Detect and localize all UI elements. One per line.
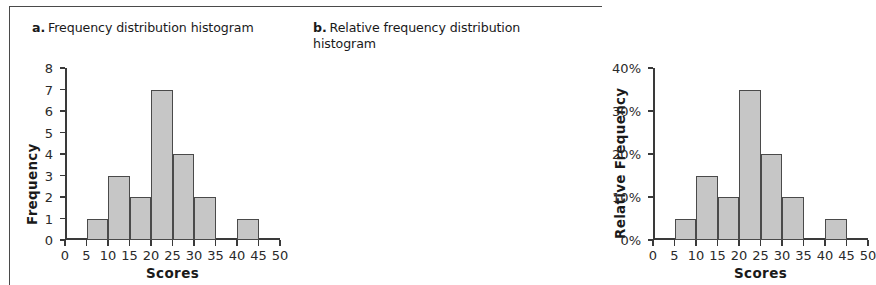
panel-a-x-tick-label: 0 [61, 248, 69, 263]
panel-b-y-tick: 30% [648, 110, 653, 112]
panel-a-y-tick: 3 [60, 175, 65, 177]
panel-a-y-tick-label: 6 [45, 104, 53, 119]
panel-a-x-tick-label: 35 [207, 248, 224, 263]
panel-b-x-tick: 50 [867, 240, 869, 246]
panel-b-y-tick-label: 0% [620, 233, 641, 248]
panel-b-plot-area: 0%10%20%30%40% 05101520253035404550 [653, 68, 868, 240]
panel-a-x-tick-label: 45 [250, 248, 267, 263]
panel-b-x-tick-label: 25 [752, 248, 769, 263]
panel-frequency-histogram: a.Frequency distribution histogram Frequ… [10, 7, 306, 285]
panel-a-y-tick: 5 [60, 132, 65, 134]
panel-a-y-tick-label: 7 [45, 82, 53, 97]
panel-b-x-tick: 5 [674, 240, 676, 246]
panel-relative-frequency-histogram: b.Relative frequency distribution histog… [301, 7, 597, 285]
panel-b-x-tick-label: 50 [860, 248, 876, 263]
panel-a-y-tick-label: 2 [45, 190, 53, 205]
panel-a-x-tick-label: 10 [100, 248, 117, 263]
panel-b-x-axis-caption: Scores [653, 265, 868, 281]
panel-a-x-tick: 0 [64, 240, 66, 246]
panel-b-title-text: Relative frequency distribution histogra… [313, 20, 520, 51]
panel-b-bar [739, 90, 761, 241]
panel-b-x-tick-label: 35 [795, 248, 812, 263]
panel-a-x-tick-label: 25 [164, 248, 181, 263]
panel-b-x-tick-label: 20 [731, 248, 748, 263]
panel-a-x-tick: 20 [150, 240, 152, 246]
panel-b-y-tick: 40% [648, 67, 653, 69]
panel-a-y-tick-label: 3 [45, 168, 53, 183]
panel-a-x-tick: 45 [258, 240, 260, 246]
panel-a-x-tick-label: 15 [121, 248, 138, 263]
panel-a-y-axis-caption: Frequency [24, 143, 40, 225]
panel-b-x-tick: 30 [781, 240, 783, 246]
panel-b-bar [825, 219, 847, 241]
panel-b-bar [718, 197, 740, 240]
panel-a-x-tick: 10 [107, 240, 109, 246]
panel-a-y-axis-line [65, 68, 67, 240]
panel-b-x-tick-label: 45 [838, 248, 855, 263]
panel-a-y-tick: 4 [60, 153, 65, 155]
panel-a-letter: a. [32, 20, 45, 35]
panel-a-y-tick: 7 [60, 89, 65, 91]
panel-a-bar [130, 197, 152, 240]
panel-b-y-tick: 20% [648, 153, 653, 155]
panel-a-x-tick: 50 [279, 240, 281, 246]
panel-a-y-tick-label: 0 [45, 233, 53, 248]
panel-b-bar [782, 197, 804, 240]
panel-a-x-tick-label: 20 [143, 248, 160, 263]
panel-a-y-tick: 2 [60, 196, 65, 198]
panel-b-x-tick: 25 [760, 240, 762, 246]
panel-a-x-tick: 25 [172, 240, 174, 246]
panel-a-y-tick-label: 8 [45, 61, 53, 76]
panel-b-y-axis-line [653, 68, 655, 240]
panel-a-y-tick-label: 1 [45, 211, 53, 226]
panel-b-bar [696, 176, 718, 241]
panel-a-bar [194, 197, 216, 240]
panel-b-x-tick: 15 [717, 240, 719, 246]
panel-a-x-tick: 5 [86, 240, 88, 246]
panel-a-y-tick-label: 5 [45, 125, 53, 140]
panel-b-y-tick-label: 40% [612, 61, 641, 76]
panel-a-title-text: Frequency distribution histogram [48, 20, 253, 35]
panel-a-x-tick: 30 [193, 240, 195, 246]
panel-b-x-tick-label: 15 [709, 248, 726, 263]
panel-a-plot-area: 012345678 05101520253035404550 [65, 68, 280, 240]
figure-frame: a.Frequency distribution histogram Frequ… [9, 6, 602, 285]
panel-a-y-tick: 8 [60, 67, 65, 69]
panel-a-bar [151, 90, 173, 241]
panel-a-y-tick: 6 [60, 110, 65, 112]
panel-a-bar [87, 219, 109, 241]
panel-b-letter: b. [313, 20, 327, 35]
panel-b-x-tick: 35 [803, 240, 805, 246]
panel-a-x-tick-label: 30 [186, 248, 203, 263]
panel-b-y-tick-label: 30% [612, 104, 641, 119]
panel-a-x-axis-caption: Scores [65, 265, 280, 281]
panel-b-x-tick: 40 [824, 240, 826, 246]
panel-b-x-tick: 0 [652, 240, 654, 246]
panel-b-x-tick-label: 10 [688, 248, 705, 263]
panel-b-x-tick-label: 30 [774, 248, 791, 263]
panel-a-bar [237, 219, 259, 241]
panel-b-x-tick: 10 [695, 240, 697, 246]
panel-b-y-tick-label: 20% [612, 147, 641, 162]
panel-b-x-tick: 20 [738, 240, 740, 246]
panel-b-x-tick: 45 [846, 240, 848, 246]
panel-a-x-tick-label: 40 [229, 248, 246, 263]
panel-b-bar [675, 219, 697, 241]
panel-b-x-tick-label: 40 [817, 248, 834, 263]
panel-b-bar [761, 154, 783, 240]
panel-b-x-tick-label: 5 [670, 248, 678, 263]
panel-a-x-tick-label: 50 [272, 248, 289, 263]
panel-b-y-tick-label: 10% [612, 190, 641, 205]
panel-a-bar [108, 176, 130, 241]
panel-a-y-tick: 1 [60, 218, 65, 220]
panel-b-x-tick-label: 0 [649, 248, 657, 263]
panel-a-x-tick: 40 [236, 240, 238, 246]
panel-a-y-tick-label: 4 [45, 147, 53, 162]
panel-a-title: a.Frequency distribution histogram [32, 20, 297, 36]
panel-a-bar [173, 154, 195, 240]
panel-a-x-tick-label: 5 [82, 248, 90, 263]
panel-b-title: b.Relative frequency distribution histog… [313, 20, 568, 51]
panel-b-y-tick: 10% [648, 196, 653, 198]
panel-a-x-tick: 15 [129, 240, 131, 246]
panel-a-x-tick: 35 [215, 240, 217, 246]
